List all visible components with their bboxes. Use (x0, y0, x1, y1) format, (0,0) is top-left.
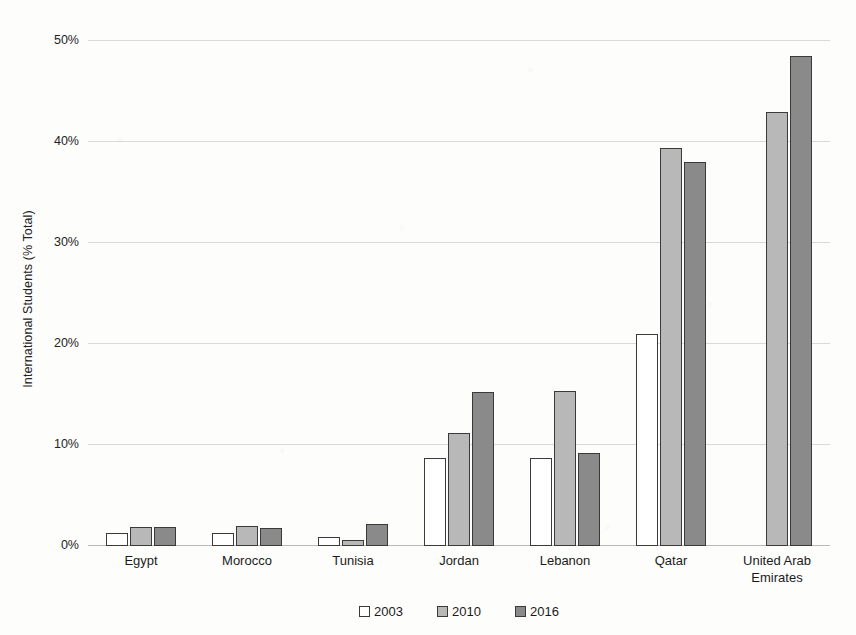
bar-group (300, 41, 406, 546)
legend-label: 2016 (530, 604, 559, 619)
bar-group (194, 41, 300, 546)
bar-2003 (636, 334, 658, 546)
chart-legend: 200320102016 (88, 604, 830, 619)
plot-area: 0%10%20%30%40%50% (88, 41, 830, 546)
bar-2003 (318, 537, 340, 546)
legend-label: 2003 (374, 604, 403, 619)
bar-2010 (236, 526, 258, 546)
y-axis-tick-label: 0% (61, 538, 79, 552)
x-axis-tick-label: Tunisia (300, 552, 406, 586)
y-axis-tick-label: 50% (54, 33, 79, 47)
x-axis-labels: EgyptMoroccoTunisiaJordanLebanonQatarUni… (88, 552, 830, 586)
x-axis-tick-label: Lebanon (512, 552, 618, 586)
bar-2003 (212, 533, 234, 546)
bar-groups (88, 41, 830, 546)
bar-2010 (554, 391, 576, 546)
bar-group (724, 41, 830, 546)
x-axis-tick-label: Jordan (406, 552, 512, 586)
bar-2010 (342, 540, 364, 546)
x-axis-tick-label: United Arab Emirates (724, 552, 830, 586)
bar-group (512, 41, 618, 546)
bar-2016 (260, 528, 282, 546)
bar-2016 (578, 453, 600, 546)
x-axis-tick-label: Qatar (618, 552, 724, 586)
bar-2010 (660, 148, 682, 546)
x-axis-tick-label: Morocco (194, 552, 300, 586)
bar-group (88, 41, 194, 546)
legend-item: 2016 (515, 604, 559, 619)
bar-2010 (448, 433, 470, 546)
legend-item: 2003 (359, 604, 403, 619)
bar-2016 (790, 56, 812, 546)
legend-swatch-icon (437, 606, 448, 617)
y-axis-tick-label: 20% (54, 336, 79, 350)
bar-2016 (366, 524, 388, 546)
y-axis-tick-label: 40% (54, 134, 79, 148)
legend-item: 2010 (437, 604, 481, 619)
bar-chart-figure: International Students (% Total) 0%10%20… (0, 0, 856, 635)
x-axis-tick-label: Egypt (88, 552, 194, 586)
bar-2003 (424, 458, 446, 546)
y-axis-title: International Students (% Total) (21, 89, 35, 509)
bar-2010 (766, 112, 788, 546)
bar-2016 (154, 527, 176, 546)
bar-group (618, 41, 724, 546)
bar-2016 (472, 392, 494, 546)
bar-2003 (106, 533, 128, 546)
legend-label: 2010 (452, 604, 481, 619)
bar-2010 (130, 527, 152, 546)
bar-2016 (684, 162, 706, 546)
bar-group (406, 41, 512, 546)
y-axis-tick-label: 30% (54, 235, 79, 249)
bar-2003 (530, 458, 552, 546)
chart-title (30, 0, 830, 5)
y-axis-tick-label: 10% (54, 437, 79, 451)
legend-swatch-icon (515, 606, 526, 617)
legend-swatch-icon (359, 606, 370, 617)
